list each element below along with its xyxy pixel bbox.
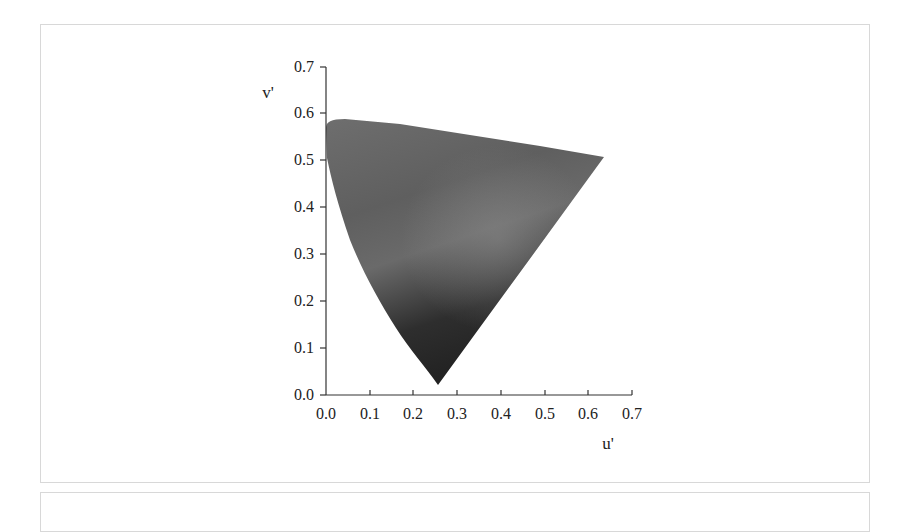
x-tick-label: 0.3 [447, 405, 467, 422]
x-tick-label: 0.4 [491, 405, 511, 422]
y-tick-labels: 0.7 0.6 0.5 0.4 0.3 0.2 0.1 0.0 [294, 58, 314, 403]
x-tick-label: 0.6 [578, 405, 598, 422]
y-tick-label: 0.3 [294, 245, 314, 262]
y-tick-label: 0.4 [294, 198, 314, 215]
y-tick-label: 0.7 [294, 58, 314, 75]
x-tick-label: 0.5 [535, 405, 555, 422]
y-tick-label: 0.0 [294, 386, 314, 403]
y-tick-label: 0.6 [294, 104, 314, 121]
x-tick-label: 0.2 [403, 405, 423, 422]
gamut-area [326, 119, 604, 385]
x-tick-label: 0.1 [360, 405, 380, 422]
y-tick-label: 0.1 [294, 339, 314, 356]
x-axis-label: u' [602, 434, 614, 453]
x-tick-label: 0.0 [316, 405, 336, 422]
y-tick-label: 0.2 [294, 292, 314, 309]
y-axis [320, 67, 326, 395]
y-tick-label: 0.5 [294, 151, 314, 168]
x-tick-label: 0.7 [622, 405, 642, 422]
x-axis [326, 390, 632, 395]
x-tick-labels: 0.0 0.1 0.2 0.3 0.4 0.5 0.6 0.7 [316, 405, 642, 422]
y-axis-label: v' [262, 83, 274, 102]
